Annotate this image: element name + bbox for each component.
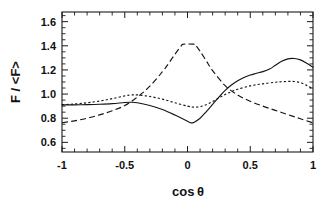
x-axis-title: cosθ [172, 184, 204, 199]
series-line-dashed [62, 44, 313, 123]
x-axis-tick-labels: -1-0.500.51 [57, 159, 316, 171]
data-series-group [62, 44, 313, 123]
y-tick-label: 1.6 [41, 16, 56, 28]
x-axis-minor-ticks [75, 12, 301, 152]
y-tick-label: 1.0 [41, 88, 56, 100]
y-tick-label: 0.8 [41, 112, 56, 124]
series-line-dotted [62, 81, 313, 107]
y-axis-tick-labels: 0.60.81.01.21.41.6 [41, 16, 57, 149]
series-line-solid [62, 58, 313, 123]
y-tick-label: 1.4 [41, 40, 57, 52]
x-tick-label: 0.5 [243, 159, 258, 171]
y-tick-label: 0.6 [41, 136, 56, 148]
x-tick-label: 1 [310, 159, 316, 171]
figure-container: -1-0.500.51 0.60.81.01.21.41.6 cosθ F / … [0, 0, 333, 206]
y-axis-title: F / <F> [8, 61, 23, 103]
x-tick-label: -1 [57, 159, 67, 171]
x-tick-label: -0.5 [115, 159, 134, 171]
y-tick-label: 1.2 [41, 64, 56, 76]
x-tick-label: 0 [184, 159, 190, 171]
chart-canvas: -1-0.500.51 0.60.81.01.21.41.6 cosθ F / … [0, 0, 333, 206]
